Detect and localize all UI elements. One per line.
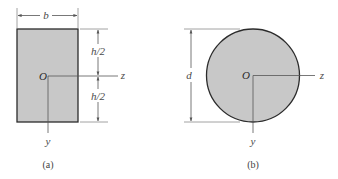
upper-half-height-label: h/2 xyxy=(91,45,106,57)
figure-b-circular-section: d O z y (b) xyxy=(184,29,325,171)
height-dimension: h/2 h/2 xyxy=(80,29,108,122)
width-dimension: b xyxy=(17,8,78,28)
diameter-label: d xyxy=(186,69,192,81)
width-label: b xyxy=(43,9,49,21)
figure-a-rectangular-section: b h/2 h/2 O z y (a) xyxy=(17,8,126,171)
origin-label: O xyxy=(39,70,47,82)
lower-half-height-label: h/2 xyxy=(91,90,106,102)
z-axis-label: z xyxy=(120,69,126,81)
z-axis-label: z xyxy=(319,69,325,81)
caption-b: (b) xyxy=(247,159,259,171)
origin-label: O xyxy=(242,69,250,81)
caption-a: (a) xyxy=(42,159,53,171)
y-axis-label: y xyxy=(45,135,51,147)
rectangle-section xyxy=(17,29,78,122)
y-axis-label: y xyxy=(250,135,256,147)
cross-sections-diagram: b h/2 h/2 O z y (a) xyxy=(0,0,338,179)
